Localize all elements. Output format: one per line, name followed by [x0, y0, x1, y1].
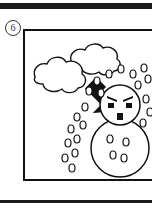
cloud-icon — [34, 44, 120, 93]
illustration-artwork — [25, 31, 152, 181]
page-rule-top — [0, 3, 152, 9]
step-number-label: 6 — [11, 23, 16, 33]
eye-right-icon — [126, 103, 132, 108]
comic-panel-page: 6 — [0, 0, 152, 214]
eye-left-icon — [108, 103, 114, 108]
step-number-badge: 6 — [5, 20, 21, 36]
page-rule-bottom — [0, 200, 152, 203]
illustration-panel — [23, 29, 152, 181]
snowman-body — [91, 119, 149, 177]
mouth-icon — [117, 113, 123, 120]
